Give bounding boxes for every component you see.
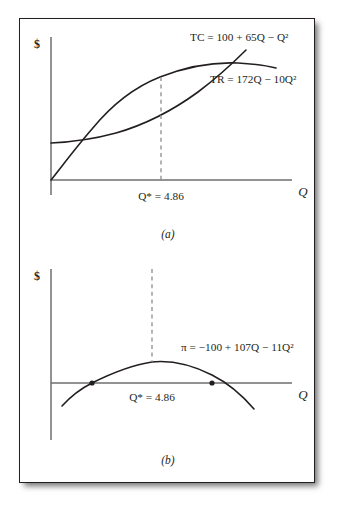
panel-a-qstar-label: Q* = 4.86: [138, 190, 184, 202]
panel-a-x-axis-label: Q: [298, 184, 308, 199]
figure-plate: $ Q TC = 100 + 65Q − Q² TR = 172Q − 10Q²: [19, 18, 315, 483]
panel-b-caption: (b): [161, 454, 175, 467]
panel-b-chart: $ Q π = −100 + 107Q − 11Q² Q* = 4.86 (b): [20, 255, 316, 484]
profit-label: π = −100 + 107Q − 11Q²: [181, 341, 294, 353]
total-cost-label: TC = 100 + 65Q − Q²: [190, 31, 289, 43]
panel-b-y-axis-label: $: [34, 269, 40, 283]
panel-b-x-axis-label: Q: [298, 387, 308, 402]
total-revenue-label: TR = 172Q − 10Q²: [210, 73, 297, 85]
panel-b: $ Q π = −100 + 107Q − 11Q² Q* = 4.86 (b): [20, 255, 316, 484]
panel-a: $ Q TC = 100 + 65Q − Q² TR = 172Q − 10Q²: [20, 19, 316, 255]
panel-a-caption: (a): [161, 228, 175, 241]
panel-b-qstar-label: Q* = 4.86: [129, 391, 175, 403]
break-even-point-right: [209, 380, 214, 385]
figure-root: $ Q TC = 100 + 65Q − Q² TR = 172Q − 10Q²: [0, 0, 337, 517]
panel-a-y-axis-label: $: [34, 37, 40, 51]
break-even-point-left: [89, 380, 94, 385]
panel-a-chart: $ Q TC = 100 + 65Q − Q² TR = 172Q − 10Q²: [20, 19, 316, 255]
